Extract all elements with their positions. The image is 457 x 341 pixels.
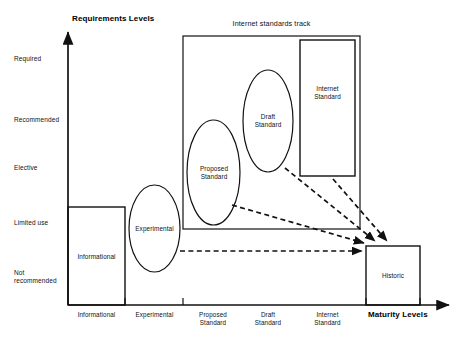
node-draft-standard-label: Draft Standard	[243, 113, 293, 129]
node-proposed-standard-label: Proposed Standard	[188, 165, 240, 181]
y-axis-label-not-recommended: Not recommended	[14, 269, 68, 285]
x-axis-label-informational: Informational	[68, 311, 125, 319]
node-historic-label: Historic	[366, 272, 420, 280]
diagram-canvas: Requirements Levels Maturity Levels Inte…	[0, 0, 457, 341]
edge-draft-standard-to-historic	[285, 168, 375, 241]
x-axis-label-experimental: Experimental	[126, 311, 183, 319]
node-experimental-label: Experimental	[129, 225, 180, 233]
y-axis-label-limited-use: Limited use	[14, 219, 66, 227]
node-internet-standard-shape[interactable]	[300, 40, 355, 176]
node-informational-label: Informational	[68, 253, 125, 261]
x-axis-label-internet-standard: Internet Standard	[300, 311, 355, 326]
y-axis-label-elective: Elective	[14, 164, 66, 172]
internet-standards-track-title: Internet standards track	[183, 20, 360, 29]
x-axis-label-draft-standard: Draft Standard	[243, 311, 293, 326]
edge-proposed-standard-to-historic	[232, 205, 364, 243]
internet-standards-track-group-box	[183, 36, 360, 229]
node-internet-standard-label: Internet Standard	[300, 85, 355, 101]
y-axis-title: Requirements Levels	[72, 14, 154, 24]
x-axis-label-proposed-standard: Proposed Standard	[187, 311, 239, 326]
y-axis-label-required: Required	[14, 55, 66, 63]
y-axis-label-recommended: Recommended	[14, 116, 70, 124]
x-axis-title: Maturity Levels	[368, 310, 428, 320]
